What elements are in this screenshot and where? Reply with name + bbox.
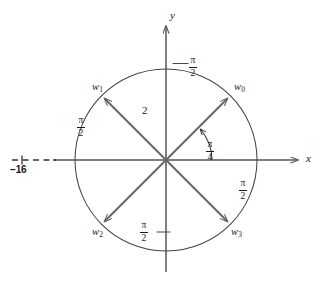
fraction-pi-over-2-right: π 2 [239, 179, 247, 202]
root-label-w1: w1 [92, 82, 103, 93]
arc-label-left-pi-over-2: π 2 [77, 116, 85, 139]
arc-label-leaders [157, 64, 188, 233]
root-vector-w1 [105, 99, 167, 161]
root-label-w3-index: 3 [238, 230, 242, 239]
root-vector-w2 [105, 160, 167, 222]
fraction-pi-over-2-left: π 2 [77, 116, 85, 139]
angle-label-pi-over-4: π 4 [206, 140, 214, 163]
fraction-numerator: π [206, 140, 214, 150]
complex-plane-figure: x y −16 2 w0 w1 w2 w3 π 4 π 2 π 2 [0, 0, 325, 284]
fraction-denominator: 2 [140, 233, 148, 243]
root-label-w3-base: w [231, 226, 238, 237]
root-label-w0-base: w [234, 81, 241, 92]
fraction-numerator: π [239, 179, 247, 189]
fraction-numerator: π [77, 116, 85, 126]
fraction-denominator: 2 [239, 191, 247, 201]
root-label-w2-index: 2 [99, 230, 103, 239]
radius-label: 2 [142, 105, 148, 116]
root-label-w1-base: w [92, 81, 99, 92]
fraction-denominator: 2 [189, 68, 197, 78]
root-label-w1-index: 1 [99, 85, 103, 94]
arc-label-top-pi-over-2: π 2 [189, 56, 197, 79]
fraction-denominator: 4 [206, 152, 214, 162]
fraction-denominator: 2 [77, 128, 85, 138]
fraction-pi-over-2-top: π 2 [189, 56, 197, 79]
fraction-numerator: π [189, 56, 197, 66]
root-vector-w0 [166, 99, 228, 161]
arc-label-right-pi-over-2: π 2 [239, 179, 247, 202]
root-label-w0: w0 [234, 82, 245, 93]
x-axis-label: x [306, 153, 311, 164]
figure-canvas [0, 0, 325, 284]
root-label-w2: w2 [92, 227, 103, 238]
root-vector-w3 [166, 160, 228, 222]
minus-sixteen-label: −16 [10, 165, 26, 175]
fraction-pi-over-4: π 4 [206, 140, 214, 163]
arc-label-bottom-pi-over-2: π 2 [140, 221, 148, 244]
root-label-w2-base: w [92, 226, 99, 237]
root-label-w0-index: 0 [241, 85, 245, 94]
root-label-w3: w3 [231, 227, 242, 238]
fraction-numerator: π [140, 221, 148, 231]
y-axis-label: y [170, 10, 175, 21]
fraction-pi-over-2-bottom: π 2 [140, 221, 148, 244]
